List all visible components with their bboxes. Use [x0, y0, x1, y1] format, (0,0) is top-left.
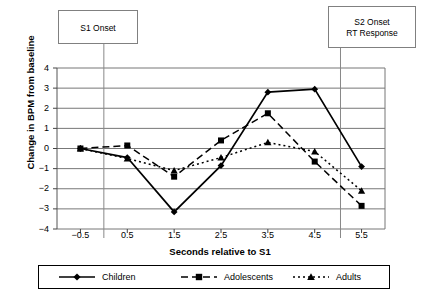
x-tick-label: 1.5 — [154, 231, 194, 240]
legend-item-adults[interactable]: Adults — [291, 270, 361, 284]
x-tick-label: 5.5 — [342, 231, 382, 240]
legend-marker-square-icon — [179, 271, 219, 283]
data-point-adolescents — [359, 203, 365, 209]
y-tick-label: −2 — [27, 184, 49, 193]
x-tick-label: 0.5 — [107, 231, 147, 240]
data-point-adolescents — [171, 174, 177, 180]
data-point-adolescents — [218, 137, 224, 143]
x-tick-label: 4.5 — [295, 231, 335, 240]
legend-item-adolescents[interactable]: Adolescents — [179, 270, 273, 284]
x-tick-label: −0.5 — [60, 231, 100, 240]
y-tick-label: −1 — [27, 164, 49, 173]
data-point-adults — [358, 187, 365, 193]
legend-marker-triangle-icon — [291, 271, 331, 283]
y-tick-label: −4 — [27, 225, 49, 234]
data-point-adolescents — [312, 159, 318, 165]
legend-label: Adolescents — [224, 272, 273, 282]
chart-legend: ChildrenAdolescentsAdults — [38, 265, 390, 289]
y-tick-label: 3 — [27, 84, 49, 93]
series-line-children — [80, 89, 361, 212]
x-tick-label: 2.5 — [201, 231, 241, 240]
y-tick-label: 4 — [27, 64, 49, 73]
y-tick-label: 2 — [27, 104, 49, 113]
data-point-adults — [171, 167, 178, 173]
legend-marker-diamond-icon — [57, 271, 97, 283]
data-point-adults — [264, 139, 271, 145]
y-tick-label: 0 — [27, 144, 49, 153]
x-tick-label: 3.5 — [248, 231, 288, 240]
plot-area — [0, 0, 425, 298]
y-tick-label: −3 — [27, 204, 49, 213]
y-tick-label: 1 — [27, 124, 49, 133]
data-point-adults — [217, 154, 224, 160]
legend-label: Children — [102, 272, 136, 282]
chart-figure: S1 Onset S2 Onset RT Response Change in … — [0, 0, 425, 298]
legend-label: Adults — [336, 272, 361, 282]
data-point-adolescents — [124, 142, 130, 148]
data-point-adolescents — [265, 110, 271, 116]
legend-item-children[interactable]: Children — [57, 270, 136, 284]
